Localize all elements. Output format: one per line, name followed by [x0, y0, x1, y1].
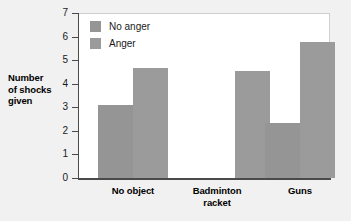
y-axis-line: [78, 13, 79, 179]
y-tick-label-4: 4: [48, 79, 68, 89]
y-tick-7: [72, 13, 78, 14]
y-tick-label-2: 2: [48, 126, 68, 136]
bar-no-object-anger: [133, 68, 168, 178]
chart-legend: No anger Anger: [90, 19, 150, 53]
x-axis-line: [78, 178, 331, 180]
legend-swatch-no-anger: [90, 21, 101, 32]
y-tick-4: [72, 84, 78, 85]
y-tick-label-6: 6: [48, 32, 68, 42]
legend-swatch-anger: [90, 38, 101, 49]
category-label-line-1: Guns: [250, 185, 350, 197]
y-tick-5: [72, 60, 78, 61]
legend-label-anger: Anger: [109, 38, 136, 49]
y-tick-label-5: 5: [48, 55, 68, 65]
y-tick-2: [72, 131, 78, 132]
y-tick-label-3: 3: [48, 102, 68, 112]
bar-no-object-no-anger: [98, 105, 133, 178]
y-tick-label-0: 0: [48, 173, 68, 183]
bar-chart-figure: Number of shocks given 01234567 No anger…: [0, 0, 351, 221]
y-tick-6: [72, 37, 78, 38]
category-label-line-2: racket: [167, 197, 267, 209]
legend-label-no-anger: No anger: [109, 21, 150, 32]
bar-guns-no-anger: [265, 123, 300, 178]
bar-guns-anger: [300, 42, 335, 178]
y-tick-1: [72, 154, 78, 155]
legend-item-no-anger: No anger: [90, 19, 150, 34]
category-label-guns: Guns: [250, 185, 350, 197]
y-tick-label-7: 7: [48, 8, 68, 18]
legend-item-anger: Anger: [90, 36, 150, 51]
y-tick-label-1: 1: [48, 149, 68, 159]
y-tick-0: [72, 178, 78, 179]
y-tick-3: [72, 107, 78, 108]
